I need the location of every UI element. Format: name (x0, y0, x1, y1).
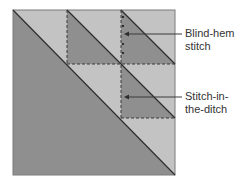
label-line: Stitch-in- (185, 90, 228, 103)
label-line: Blind-hem (185, 27, 235, 40)
label-line: stitch (185, 40, 235, 53)
label-blind-hem-stitch: Blind-hem stitch (185, 27, 235, 53)
label-stitch-in-the-ditch: Stitch-in- the-ditch (185, 90, 228, 116)
label-line: the-ditch (185, 103, 228, 116)
